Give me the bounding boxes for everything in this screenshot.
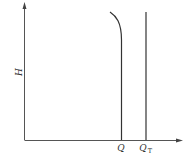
diagram-canvas: H Q Q T	[0, 0, 185, 167]
y-axis-label: H	[14, 68, 24, 77]
q-curve	[110, 12, 122, 140]
x-label-qt-subscript: T	[148, 147, 153, 155]
x-axis-arrow-icon	[176, 139, 183, 143]
x-label-q: Q	[117, 143, 125, 153]
x-label-qt: Q	[139, 143, 147, 153]
y-axis-arrow-icon	[23, 2, 27, 9]
